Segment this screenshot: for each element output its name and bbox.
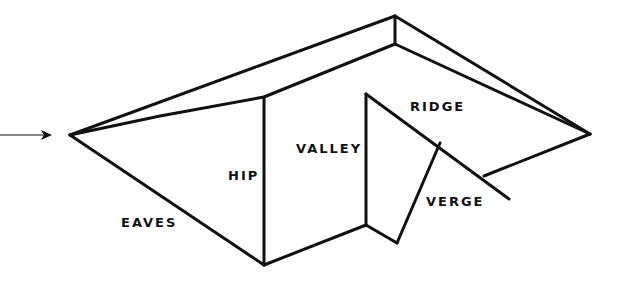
roof-top-right-edge: [395, 16, 590, 134]
ridge-label: RIDGE: [410, 99, 465, 114]
hip-label: HIP: [228, 168, 259, 183]
verge-line: [397, 143, 440, 243]
eaves-label: EAVES: [121, 215, 177, 230]
valley-label: VALLEY: [296, 141, 362, 156]
valley-bottom: [366, 225, 397, 243]
right-lower-edge: [484, 134, 590, 176]
roof-diagram: EAVES HIP VALLEY RIDGE VERGE: [0, 0, 617, 284]
ridge-inner-right: [395, 44, 590, 134]
arrow-right-icon: [0, 130, 52, 140]
verge-label: VERGE: [426, 194, 485, 209]
hip-roof-inner-left: [70, 44, 395, 135]
bottom-eave-line: [264, 225, 366, 265]
eaves-line: [70, 135, 264, 265]
roof-top-left-edge: [70, 16, 395, 135]
